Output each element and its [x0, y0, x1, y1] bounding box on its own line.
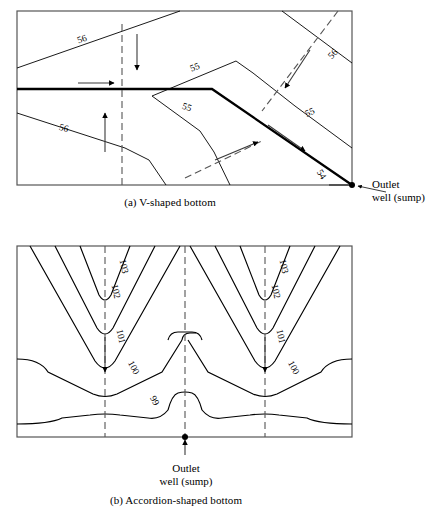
outlet-well-line2: well (sump)	[372, 191, 425, 204]
outlet-well-annotation-a: Outlet well (sump)	[372, 178, 425, 204]
contour-diagram-svg: 56 56 55 55 55 56 54	[0, 0, 442, 518]
outlet-well-line2: well (sump)	[146, 475, 226, 488]
outlet-well-line1: Outlet	[146, 462, 226, 475]
figure-container: 56 56 55 55 55 56 54	[0, 0, 442, 518]
panel-a-caption: (a) V-shaped bottom	[0, 196, 340, 208]
panel-a-group: 56 56 55 55 55 56 54	[17, 11, 386, 192]
panel-b-caption: (b) Accordion-shaped bottom	[0, 494, 352, 506]
panel-b-group: 103 102 101 100 99 103 102 101 100	[17, 246, 352, 455]
panel-a-frame	[17, 11, 352, 185]
outlet-well-line1: Outlet	[372, 178, 425, 191]
outlet-well-annotation-b: Outlet well (sump)	[146, 462, 226, 488]
sump-point-b	[182, 434, 188, 440]
sump-point-a	[349, 182, 355, 188]
